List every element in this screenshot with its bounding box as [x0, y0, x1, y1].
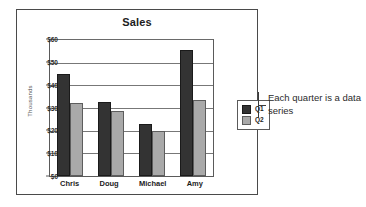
bar-group [139, 40, 165, 176]
x-tick-label: Michael [139, 179, 167, 188]
x-tick-label: Amy [187, 179, 203, 188]
y-tick-mark [46, 61, 49, 62]
bar-group [180, 40, 206, 176]
chart-object-frame[interactable]: Sales Thousands $60$50$40$30$20$10$0 Chr… [16, 9, 258, 195]
y-tick-mark [46, 39, 49, 40]
bar-q2-amy[interactable] [193, 100, 206, 177]
bar-group [98, 40, 124, 176]
x-tick-label: Doug [100, 179, 119, 188]
bar-q2-chris[interactable] [70, 103, 83, 176]
annotation-text: Each quarter is a data series [268, 92, 364, 118]
bar-q1-doug[interactable] [98, 102, 111, 176]
bar-group [57, 40, 83, 176]
y-axis-title: Thousands [27, 71, 33, 131]
y-tick-mark [46, 84, 49, 85]
legend-swatch-q1-icon [242, 105, 251, 114]
x-tick-label: Chris [60, 179, 79, 188]
bar-q1-chris[interactable] [57, 74, 70, 176]
bar-q2-michael[interactable] [152, 131, 165, 176]
bar-q1-michael[interactable] [139, 124, 152, 176]
bar-q2-doug[interactable] [111, 111, 124, 176]
y-tick-mark [46, 130, 49, 131]
x-axis-labels: ChrisDougMichaelAmy [50, 179, 213, 188]
bar-series-layer [50, 40, 213, 176]
legend-label: Q2 [255, 117, 264, 124]
legend-swatch-q2-icon [242, 116, 251, 125]
callout-bracket-icon [258, 92, 265, 118]
bar-q1-amy[interactable] [180, 50, 193, 176]
y-tick-mark [46, 176, 49, 177]
chart-title: Sales [17, 16, 257, 28]
y-tick-mark [46, 107, 49, 108]
y-tick-mark [46, 153, 49, 154]
chart-screenshot: Sales Thousands $60$50$40$30$20$10$0 Chr… [0, 0, 366, 207]
